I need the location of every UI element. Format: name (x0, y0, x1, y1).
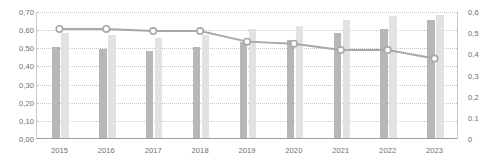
y-axis-left-tick: 0,60 (19, 26, 34, 35)
x-axis-tick-label: 2016 (98, 146, 115, 155)
y-axis-left-tick: 0,00 (19, 135, 34, 144)
line-marker (150, 28, 156, 34)
x-axis-tick-label: 2022 (379, 146, 396, 155)
line-marker (197, 28, 203, 34)
line-marker (384, 47, 390, 53)
line-marker (338, 47, 344, 53)
y-axis-left-tick: 0,70 (19, 8, 34, 17)
x-axis-tick-label: 2017 (145, 146, 162, 155)
x-axis-tick-label: 2023 (426, 146, 443, 155)
y-axis-right-tick: 0,4 (468, 50, 479, 59)
line-marker (56, 26, 62, 32)
y-axis-left: 0,000,100,200,300,400,500,600,70 (0, 0, 34, 165)
y-axis-right-tick: 0,1 (468, 113, 479, 122)
y-axis-left-tick: 0,40 (19, 62, 34, 71)
y-axis-left-tick: 0,50 (19, 44, 34, 53)
x-axis-tick-label: 2021 (332, 146, 349, 155)
chart-container: 0,000,100,200,300,400,500,600,70 00,10,2… (0, 0, 492, 165)
x-axis-tick-label: 2020 (285, 146, 302, 155)
y-axis-right: 00,10,20,30,40,50,6 (462, 0, 492, 165)
x-axis-tick-label: 2015 (51, 146, 68, 155)
y-axis-left-tick: 0,20 (19, 98, 34, 107)
line-marker (103, 26, 109, 32)
line-marker (291, 41, 297, 47)
y-axis-right-tick: 0,3 (468, 71, 479, 80)
y-axis-left-tick: 0,30 (19, 80, 34, 89)
line-series-svg (36, 12, 458, 139)
y-axis-right-tick: 0,6 (468, 8, 479, 17)
y-axis-right-tick: 0,2 (468, 92, 479, 101)
y-axis-right-tick: 0,5 (468, 29, 479, 38)
line-marker (431, 55, 437, 61)
x-axis-tick-label: 2018 (192, 146, 209, 155)
y-axis-right-tick: 0 (468, 135, 472, 144)
line-marker (244, 38, 250, 44)
x-axis-tick-label: 2019 (238, 146, 255, 155)
y-axis-left-tick: 0,10 (19, 116, 34, 125)
